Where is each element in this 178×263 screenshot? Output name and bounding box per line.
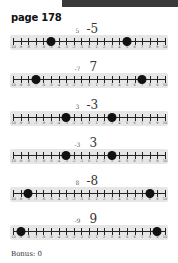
tick-mark: [150, 38, 151, 45]
tick-label: -10: [10, 197, 16, 201]
tick-label: -9: [19, 45, 23, 49]
number-line[interactable]: -10-9-8-7-6-5-4-3-2-1012345678910: [10, 225, 168, 240]
tick-label: -1: [80, 235, 84, 239]
plotted-point-dot[interactable]: [47, 37, 56, 46]
tick-label: -6: [42, 83, 46, 87]
tick-label: 3: [111, 197, 113, 201]
prompt-row: -77: [0, 56, 178, 72]
tick-label: -7: [34, 197, 38, 201]
tick-mark: [97, 190, 98, 197]
tick-label: -5: [49, 159, 53, 163]
problem-1: 5-5-10-9-8-7-6-5-4-3-2-1012345678910: [0, 18, 178, 54]
number-line[interactable]: -10-9-8-7-6-5-4-3-2-1012345678910: [10, 73, 168, 88]
plotted-point-dot[interactable]: [62, 151, 71, 160]
tick-label: -4: [57, 235, 61, 239]
tick-mark: [150, 76, 151, 83]
tick-mark: [36, 114, 37, 121]
tick-mark: [127, 76, 128, 83]
tick-label: 10: [163, 197, 167, 201]
tick-label: -1: [80, 83, 84, 87]
tick-mark: [59, 114, 60, 121]
tick-label: 0: [88, 159, 90, 163]
plotted-point-dot[interactable]: [138, 75, 147, 84]
plotted-point-dot[interactable]: [16, 227, 25, 236]
plotted-point-dot[interactable]: [107, 151, 116, 160]
prompt-number: 3: [76, 103, 80, 110]
plotted-point-dot[interactable]: [145, 189, 154, 198]
tick-label: 9: [156, 159, 158, 163]
tick-label: 10: [163, 159, 167, 163]
tick-label: -9: [19, 121, 23, 125]
tick-mark: [119, 152, 120, 159]
tick-label: 5: [126, 121, 128, 125]
tick-mark: [43, 190, 44, 197]
tick-label: 1: [95, 83, 97, 87]
tick-mark: [142, 190, 143, 197]
tick-mark: [74, 190, 75, 197]
prompt-row: 8-8: [0, 170, 178, 186]
number-line[interactable]: -10-9-8-7-6-5-4-3-2-1012345678910: [10, 111, 168, 126]
tick-mark: [51, 76, 52, 83]
tick-mark: [165, 76, 166, 83]
tick-mark: [21, 190, 22, 197]
tick-label: 0: [88, 197, 90, 201]
tick-mark: [135, 114, 136, 121]
tick-mark: [127, 152, 128, 159]
tick-label: -1: [80, 197, 84, 201]
plotted-point-dot[interactable]: [123, 37, 132, 46]
prompt-number: -3: [75, 141, 81, 148]
tick-label: -5: [49, 121, 53, 125]
tick-label: 10: [163, 45, 167, 49]
tick-mark: [127, 190, 128, 197]
tick-label: 2: [103, 235, 105, 239]
tick-label: 6: [133, 235, 135, 239]
number-line[interactable]: -10-9-8-7-6-5-4-3-2-1012345678910: [10, 149, 168, 164]
tick-mark: [21, 76, 22, 83]
tick-label: 4: [118, 45, 120, 49]
tick-mark: [59, 190, 60, 197]
tick-label: -2: [72, 159, 76, 163]
tick-mark: [165, 114, 166, 121]
tick-label: 5: [126, 159, 128, 163]
tick-mark: [135, 38, 136, 45]
plotted-point-dot[interactable]: [107, 113, 116, 122]
tick-label: 7: [141, 159, 143, 163]
tick-mark: [89, 190, 90, 197]
tick-mark: [97, 114, 98, 121]
tick-label: -5: [49, 83, 53, 87]
tick-label: -4: [57, 159, 61, 163]
tick-mark: [36, 190, 37, 197]
tick-label: 5: [126, 235, 128, 239]
tick-mark: [104, 190, 105, 197]
tick-label: -2: [72, 45, 76, 49]
tick-label: -2: [72, 235, 76, 239]
tick-mark: [36, 228, 37, 235]
problem-2: -77-10-9-8-7-6-5-4-3-2-1012345678910: [0, 56, 178, 92]
tick-label: -3: [64, 235, 68, 239]
tick-mark: [43, 76, 44, 83]
tick-label: 3: [111, 45, 113, 49]
tick-label: 4: [118, 197, 120, 201]
number-line[interactable]: -10-9-8-7-6-5-4-3-2-1012345678910: [10, 187, 168, 202]
tick-mark: [165, 38, 166, 45]
plotted-point-dot[interactable]: [31, 75, 40, 84]
tick-label: 9: [156, 83, 158, 87]
tick-mark: [104, 152, 105, 159]
tick-mark: [89, 76, 90, 83]
tick-label: -2: [72, 121, 76, 125]
tick-label: 7: [141, 235, 143, 239]
tick-mark: [89, 228, 90, 235]
prompt-number: 5: [76, 27, 80, 34]
plotted-point-dot[interactable]: [24, 189, 33, 198]
tick-mark: [97, 38, 98, 45]
plotted-point-dot[interactable]: [153, 227, 162, 236]
tick-mark: [112, 228, 113, 235]
tick-label: 6: [133, 159, 135, 163]
tick-label: 8: [149, 83, 151, 87]
plotted-point-dot[interactable]: [62, 113, 71, 122]
tick-label: -10: [10, 83, 16, 87]
tick-label: -5: [49, 235, 53, 239]
number-line[interactable]: -10-9-8-7-6-5-4-3-2-1012345678910: [10, 35, 168, 50]
tick-label: -10: [10, 159, 16, 163]
tick-label: 6: [133, 197, 135, 201]
